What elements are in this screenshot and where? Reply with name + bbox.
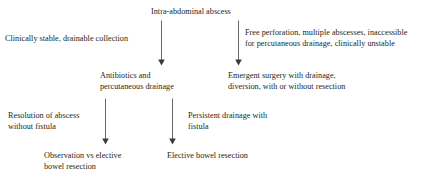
node-antibiotics-percutaneous-drainage: Antibiotics and percutaneous drainage [100, 70, 210, 93]
edge-label-persistent-drainage-fistula: Persistent drainage with fistula [188, 110, 308, 133]
edge-label-clinically-stable: Clinically stable, drainable collection [5, 33, 165, 44]
edge-antibiotics-to-elective-resection [169, 99, 176, 145]
edge-label-free-perforation: Free perforation, multiple abscesses, in… [245, 27, 441, 50]
node-observation-vs-elective-resection: Observation vs elective bowel resection [44, 150, 169, 173]
node-emergent-surgery: Emergent surgery with drainage, diversio… [228, 70, 393, 93]
node-elective-bowel-resection: Elective bowel resection [167, 150, 292, 161]
edge-root-to-emergent-surgery [235, 21, 242, 66]
node-intra-abdominal-abscess: Intra-abdominal abscess [151, 6, 281, 17]
edge-label-resolution-without-fistula: Resolution of abscess without fistula [8, 110, 113, 133]
flowchart-canvas: Intra-abdominal abscess Clinically stabl… [0, 0, 443, 180]
